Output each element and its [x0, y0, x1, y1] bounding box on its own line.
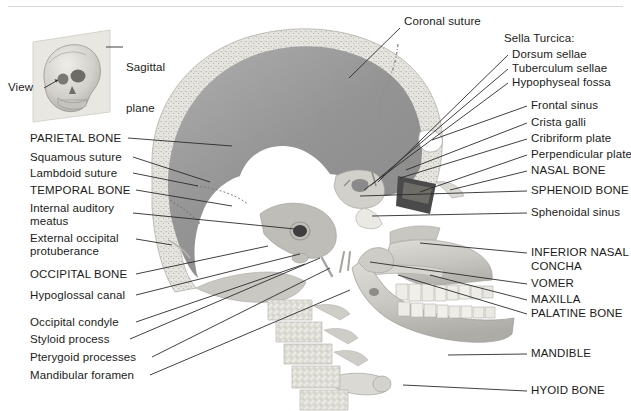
label-inferior-nasal-concha-2: CONCHA: [531, 260, 582, 274]
label-styloid-process: Styloid process: [30, 333, 109, 347]
label-parietal-bone: PARIETAL BONE: [30, 132, 121, 146]
label-internal-auditory-meatus-2: meatus: [30, 215, 68, 229]
midsagittal-skull: [152, 29, 514, 410]
inset-orbit-2: [58, 74, 69, 85]
hypophyseal-fossa-shape: [351, 179, 368, 192]
label-occipital-bone: OCCIPITAL BONE: [30, 268, 127, 282]
lower-teeth: [398, 302, 495, 318]
label-maxilla: MAXILLA: [531, 293, 581, 307]
label-pterygoid-processes: Pterygoid processes: [30, 351, 136, 365]
upper-teeth: [396, 284, 493, 301]
label-crista-galli: Crista galli: [531, 116, 586, 130]
sphenoidal-sinus-shape: [356, 208, 382, 229]
label-coronal-suture: Coronal suture: [404, 15, 481, 29]
label-cribriform-plate: Cribriform plate: [531, 132, 611, 146]
label-temporal-bone: TEMPORAL BONE: [30, 184, 131, 198]
inset-sagittal-plane-label: Sagittal plane: [126, 34, 165, 142]
label-sphenoid-bone: SPHENOID BONE: [531, 184, 629, 198]
label-internal-auditory-meatus: Internal auditory: [30, 202, 114, 216]
leader-occipital-bone: [136, 246, 268, 274]
label-sphenoidal-sinus: Sphenoidal sinus: [531, 206, 620, 220]
styloid-process-shape: [322, 258, 332, 276]
label-palatine-bone: PALATINE BONE: [531, 307, 623, 321]
inset-sagittal-plane-line2: plane: [126, 102, 165, 116]
label-inferior-nasal-concha: INFERIOR NASAL: [531, 246, 629, 260]
label-external-occipital: External occipital: [30, 232, 119, 246]
label-hypoglossal-canal: Hypoglossal canal: [30, 289, 125, 303]
inset-sagittal-plane-line1: Sagittal: [126, 61, 165, 75]
label-mandibular-foramen: Mandibular foramen: [30, 369, 134, 383]
leader-frontal-sinus: [432, 106, 527, 140]
inset-view-label: View: [8, 81, 33, 95]
label-vomer: VOMER: [531, 277, 574, 291]
figure-canvas: Sagittal plane View PARIETAL BONESquamou…: [0, 0, 631, 411]
label-hyoid-bone: HYOID BONE: [531, 384, 605, 398]
sagittal-plane-inset-graphic: [33, 30, 123, 122]
maxilla-shape: [386, 240, 492, 286]
pterygoid-processes-shape: [340, 252, 350, 272]
label-squamous-suture: Squamous suture: [30, 151, 122, 165]
label-tuberculum-sellae: Tuberculum sellae: [512, 62, 607, 76]
mandibular-foramen-shape: [369, 288, 379, 296]
leader-sphenoidal-sinus: [372, 213, 527, 216]
label-perpendicular-plate: Perpendicular plate: [531, 148, 631, 162]
inset-orbit-1: [71, 70, 86, 83]
label-nasal-bone: NASAL BONE: [531, 164, 606, 178]
leader-hyoid-bone: [403, 385, 527, 391]
leader-mandible: [448, 354, 527, 355]
label-external-occipital-2: protuberance: [30, 245, 99, 259]
label-mandible: MANDIBLE: [531, 347, 591, 361]
label-dorsum-sellae: Dorsum sellae: [512, 48, 587, 62]
occipital-condyle-shape: [292, 253, 308, 263]
label-sella-turcica: Sella Turcica:: [504, 32, 574, 46]
label-occipital-condyle: Occipital condyle: [30, 316, 119, 330]
leader-nasal-bone: [450, 171, 527, 190]
label-frontal-sinus: Frontal sinus: [531, 99, 598, 113]
label-lambdoid-suture: Lambdoid suture: [30, 167, 117, 181]
label-hypophyseal-fossa: Hypophyseal fossa: [512, 76, 611, 90]
internal-auditory-meatus-opening: [293, 225, 307, 237]
